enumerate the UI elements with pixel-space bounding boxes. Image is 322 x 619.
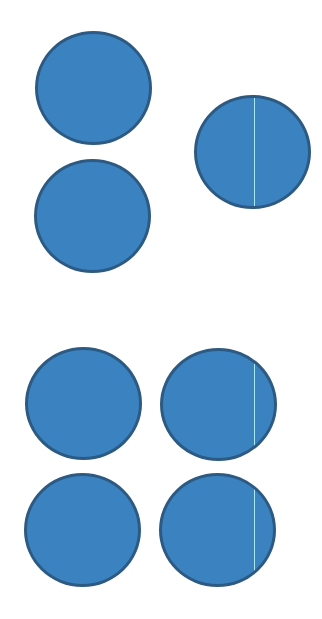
circle-shape — [34, 159, 151, 273]
circle-shape — [25, 347, 142, 460]
circle-shape — [194, 95, 311, 209]
circle-shape — [159, 473, 276, 587]
circle-shape — [35, 31, 152, 145]
divider-line — [254, 348, 255, 450]
circle-shape — [24, 473, 141, 587]
divider-line — [254, 95, 255, 209]
divider-line — [254, 487, 255, 572]
circle-shape — [160, 348, 277, 461]
